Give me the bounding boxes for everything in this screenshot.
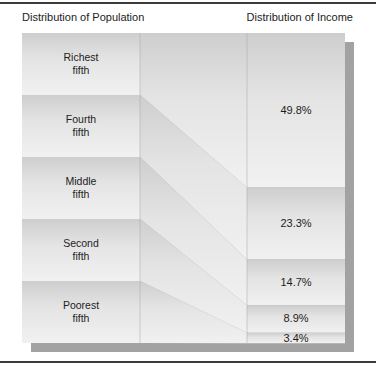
quintile-label-line1: Second <box>63 237 99 249</box>
quintile-label-line2: fifth <box>73 312 90 324</box>
quintile-label-second: Second fifth <box>22 237 140 263</box>
quintile-label-line2: fifth <box>73 64 90 76</box>
income-share-label-middle: 14.7% <box>247 276 345 289</box>
quintile-label-line2: fifth <box>73 188 90 200</box>
income-share-label-second: 8.9% <box>247 312 345 325</box>
quintile-label-richest: Richest fifth <box>22 51 140 77</box>
quintile-label-poorest: Poorest fifth <box>22 299 140 325</box>
quintile-label-line1: Fourth <box>66 113 96 125</box>
quintile-label-line1: Poorest <box>63 299 99 311</box>
income-share-label-poorest: 3.4% <box>247 332 345 345</box>
quintile-label-line1: Richest <box>63 51 98 63</box>
quintile-label-fourth: Fourth fifth <box>22 113 140 139</box>
income-share-label-richest: 49.8% <box>247 104 345 117</box>
quintile-label-line2: fifth <box>73 250 90 262</box>
figure: Distribution of Population Distribution … <box>0 0 376 369</box>
quintile-label-middle: Middle fifth <box>22 175 140 201</box>
quintile-label-line2: fifth <box>73 126 90 138</box>
bottom-rule <box>0 361 376 363</box>
quintile-label-line1: Middle <box>66 175 97 187</box>
income-share-label-fourth: 23.3% <box>247 217 345 230</box>
